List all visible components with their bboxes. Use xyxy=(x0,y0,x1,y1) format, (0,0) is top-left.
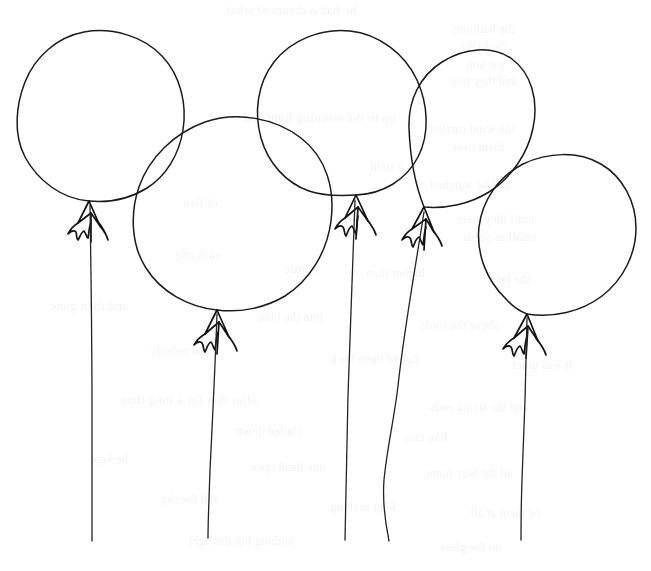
balloon-3-body xyxy=(257,31,426,196)
balloon-3-tassel-tip xyxy=(356,207,358,239)
balloon-2 xyxy=(133,117,332,538)
drawing-canvas: he had a dream of whatthe balloonscould … xyxy=(0,0,651,571)
balloon-5-body xyxy=(479,155,636,316)
balloon-5 xyxy=(479,155,636,540)
balloon-2-tassel-right xyxy=(227,334,237,351)
balloon-3 xyxy=(257,31,426,540)
balloon-1-tassel-right xyxy=(99,223,108,240)
balloon-1-knot xyxy=(78,201,100,226)
balloon-2-tassel-tip xyxy=(217,322,219,354)
balloon-2-body xyxy=(133,117,332,311)
balloon-2-tassel xyxy=(194,332,218,352)
balloon-1-string xyxy=(90,205,92,541)
balloon-4-tassel xyxy=(402,227,426,247)
balloon-1-tassel xyxy=(68,222,91,240)
balloon-5-tassel xyxy=(503,336,527,356)
balloon-4-body xyxy=(409,50,535,208)
balloon-1 xyxy=(17,31,184,541)
balloon-4 xyxy=(383,50,534,541)
balloon-4-tassel-tip xyxy=(424,219,426,250)
balloon-5-tassel-right xyxy=(536,338,546,355)
balloon-1-body xyxy=(17,31,184,202)
balloons-illustration xyxy=(0,0,651,571)
balloon-3-knot xyxy=(345,195,368,221)
balloon-4-string xyxy=(383,212,424,541)
balloon-3-tassel-right xyxy=(366,218,376,235)
balloon-2-string xyxy=(208,314,217,538)
balloon-3-string xyxy=(345,200,355,540)
balloon-4-tassel-right xyxy=(432,229,442,246)
